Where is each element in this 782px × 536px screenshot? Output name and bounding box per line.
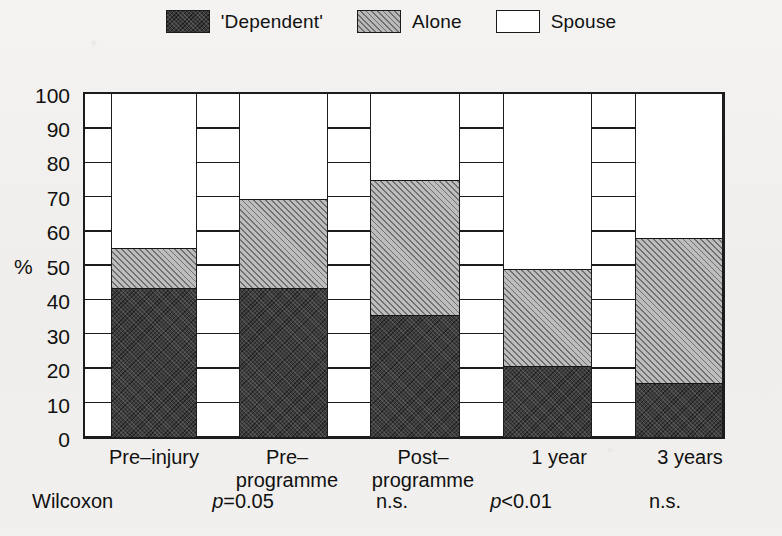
wilcoxon-value-1: p=0.05 <box>212 490 274 513</box>
y-ruler-gap-4 <box>591 94 635 437</box>
wilcoxon-value-4: n.s. <box>649 490 681 513</box>
plot-columns <box>85 94 723 437</box>
segment-alone-1-year[interactable] <box>504 269 591 366</box>
x-axis: Pre–injury Pre– programme Post– programm… <box>83 446 725 496</box>
wilcoxon-value-2: n.s. <box>376 490 408 513</box>
plot-area <box>83 92 725 439</box>
wilcoxon-value-3: p<0.01 <box>490 490 552 513</box>
wilcoxon-value-4-rest: n.s. <box>649 490 681 512</box>
y-ruler-gap-1 <box>196 94 240 437</box>
y-ruler-gap-2 <box>327 94 371 437</box>
segment-alone-3-years[interactable] <box>636 238 722 383</box>
segment-dependent-1-year[interactable] <box>504 366 591 437</box>
segment-alone-post-programme[interactable] <box>371 180 458 315</box>
y-ruler-left <box>85 94 111 437</box>
wilcoxon-value-1-rest: =0.05 <box>223 490 274 512</box>
x-label-3-years: 3 years <box>610 446 770 469</box>
bar-slot-post-programme <box>370 94 458 437</box>
wilcoxon-value-3-rest: <0.01 <box>501 490 552 512</box>
y-ruler-gap-3 <box>459 94 503 437</box>
bar-pre-programme[interactable] <box>240 94 326 437</box>
bar-slot-1-year <box>503 94 591 437</box>
segment-alone-pre-injury[interactable] <box>112 248 195 287</box>
bar-post-programme[interactable] <box>371 94 458 437</box>
bar-slot-pre-programme <box>239 94 326 437</box>
segment-spouse-pre-programme[interactable] <box>240 94 326 199</box>
segment-alone-pre-programme[interactable] <box>240 199 326 288</box>
y-ruler-right <box>722 94 723 437</box>
bar-3-years[interactable] <box>636 94 722 437</box>
segment-spouse-3-years[interactable] <box>636 94 722 238</box>
segment-dependent-post-programme[interactable] <box>371 315 458 437</box>
segment-spouse-1-year[interactable] <box>504 94 591 269</box>
bar-pre-injury[interactable] <box>112 94 195 437</box>
bar-slot-pre-injury <box>111 94 195 437</box>
p-symbol-1: p <box>212 490 223 512</box>
segment-spouse-pre-injury[interactable] <box>112 94 195 248</box>
wilcoxon-value-2-rest: n.s. <box>376 490 408 512</box>
wilcoxon-label: Wilcoxon <box>32 490 113 513</box>
segment-dependent-pre-injury[interactable] <box>112 288 195 437</box>
bar-1-year[interactable] <box>504 94 591 437</box>
segment-dependent-3-years[interactable] <box>636 383 722 437</box>
segment-dependent-pre-programme[interactable] <box>240 288 326 437</box>
bar-slot-3-years <box>635 94 722 437</box>
segment-spouse-post-programme[interactable] <box>371 94 458 180</box>
wilcoxon-row: Wilcoxon p=0.05 n.s. p<0.01 n.s. <box>0 490 782 530</box>
p-symbol-3: p <box>490 490 501 512</box>
